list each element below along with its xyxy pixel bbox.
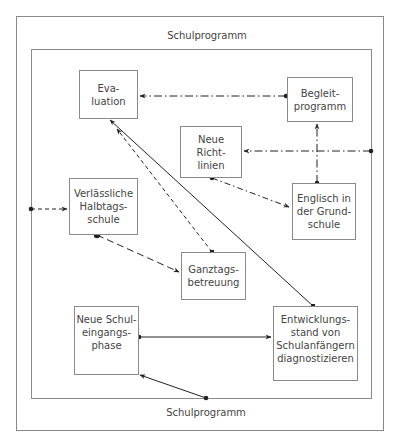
node-label: Ganztags- betreuung (188, 263, 240, 289)
node-englisch-grundschule: Englisch in der Grund- schule (292, 183, 356, 240)
edge-frame-to-schuleingang (140, 375, 206, 398)
dot-marker (204, 396, 209, 401)
node-evaluation: Eva- luation (79, 70, 138, 119)
node-label: Englisch in der Grund- schule (297, 192, 351, 231)
node-neue-richtlinien: Neue Richt- linien (180, 126, 242, 178)
node-neue-schuleingangsphase: Neue Schul- eingangs- phase (74, 306, 139, 375)
diagram-canvas: Schulprogramm Schulprogramm (0, 0, 400, 445)
node-begleitprogramm: Begleit- programm (287, 77, 353, 122)
node-entwicklungsstand: Entwicklungs- stand von Schulanfängern d… (273, 306, 358, 381)
node-ganztagsbetreuung: Ganztags- betreuung (181, 252, 246, 300)
node-label: Neue Schul- eingangs- phase (76, 313, 136, 352)
node-label: Eva- luation (91, 82, 125, 108)
node-label: Verlässliche Halbtags- schule (74, 187, 133, 226)
dot-marker (29, 207, 34, 212)
node-label: Neue Richt- linien (196, 133, 225, 172)
dot-marker (369, 149, 374, 154)
edge-verlaessliche-to-ganztags (97, 235, 179, 272)
node-label: Entwicklungs- stand von Schulanfängern d… (276, 313, 355, 365)
node-label: Begleit- programm (294, 87, 346, 113)
node-verlaessliche-halbtagsschule: Verlässliche Halbtags- schule (69, 178, 138, 235)
edge-richtlinien-to-englisch (212, 178, 289, 207)
